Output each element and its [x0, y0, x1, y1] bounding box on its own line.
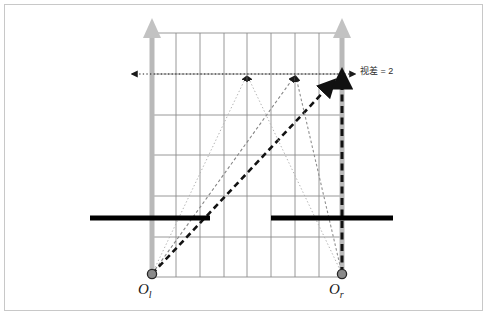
right-camera-axis-arrowhead	[333, 18, 351, 38]
right-camera-label-base: O	[329, 281, 340, 297]
left-occluder-bar	[90, 216, 210, 221]
left-camera-axis-arrowhead	[143, 18, 161, 38]
left-camera-label: Ol	[138, 282, 152, 300]
diagram-canvas	[0, 0, 488, 316]
voxel-grid	[152, 33, 342, 277]
disparity-annotation: 视差 = 2	[360, 67, 393, 76]
right-camera-dot	[337, 269, 346, 278]
right-occluder-bar	[271, 216, 393, 221]
rays-from-left-camera	[152, 77, 331, 274]
ray-ol-bold	[152, 84, 331, 274]
occluder-bars	[90, 216, 393, 221]
left-camera-dot	[147, 269, 156, 278]
left-camera-label-base: O	[138, 281, 149, 297]
right-camera-label: Or	[329, 282, 344, 300]
left-camera-label-subscript: l	[149, 289, 152, 300]
figure-root: Ol Or 视差 = 2	[0, 0, 488, 316]
ray-ol-medium	[152, 77, 294, 274]
right-camera-label-subscript: r	[340, 289, 344, 300]
ray-ol-light	[152, 77, 246, 274]
